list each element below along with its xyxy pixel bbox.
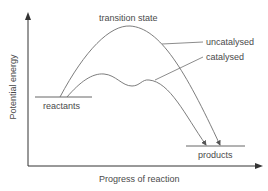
uncatalysed-leader [162,42,203,44]
catalysed-curve [67,74,206,145]
x-axis-label: Progress of reaction [99,175,180,184]
energy-profile-diagram: transition state uncatalysed catalysed r… [0,0,268,191]
catalysed-leader [155,57,203,80]
y-axis [25,12,31,166]
catalysed-label: catalysed [206,53,244,62]
products-label: products [198,151,233,160]
reactants-label: reactants [43,102,80,111]
x-axis [28,163,263,169]
uncatalysed-curve [60,26,220,145]
transition-state-label: transition state [99,14,158,23]
diagram-graphics [0,0,268,191]
uncatalysed-label: uncatalysed [206,38,254,47]
y-axis-label: Potential energy [8,42,18,132]
